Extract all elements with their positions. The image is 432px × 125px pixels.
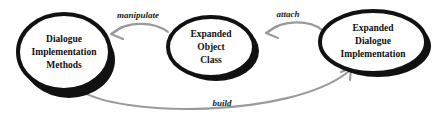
edge-manipulate [111, 24, 168, 39]
node-expanded-dialogue-implementation[interactable]: Expanded Dialogue Implementation [320, 11, 431, 77]
diagram-canvas: Dialogue Implementation Methods Expanded… [0, 0, 432, 125]
node-1-label-line-2: Implementation [32, 47, 98, 57]
diagram-svg: Dialogue Implementation Methods Expanded… [0, 0, 432, 125]
node-1-label-line-3: Methods [46, 60, 82, 70]
node-3-label-line-1: Expanded [352, 23, 394, 33]
edge-label-attach: attach [276, 9, 299, 19]
node-2-label-line-3: Class [200, 55, 222, 65]
node-expanded-object-class[interactable]: Expanded Object Class [168, 17, 259, 81]
edge-label-build: build [212, 98, 232, 108]
node-dialogue-implementation-methods[interactable]: Dialogue Implementation Methods [18, 14, 115, 98]
node-3-label-line-2: Dialogue [355, 36, 391, 46]
node-3-label-line-3: Implementation [341, 49, 407, 59]
edge-attach [266, 22, 322, 38]
node-2-label-line-1: Expanded [190, 29, 232, 39]
node-2-label-line-2: Object [197, 42, 225, 52]
edge-label-manipulate: manipulate [117, 10, 159, 20]
node-1-label-line-1: Dialogue [46, 34, 82, 44]
